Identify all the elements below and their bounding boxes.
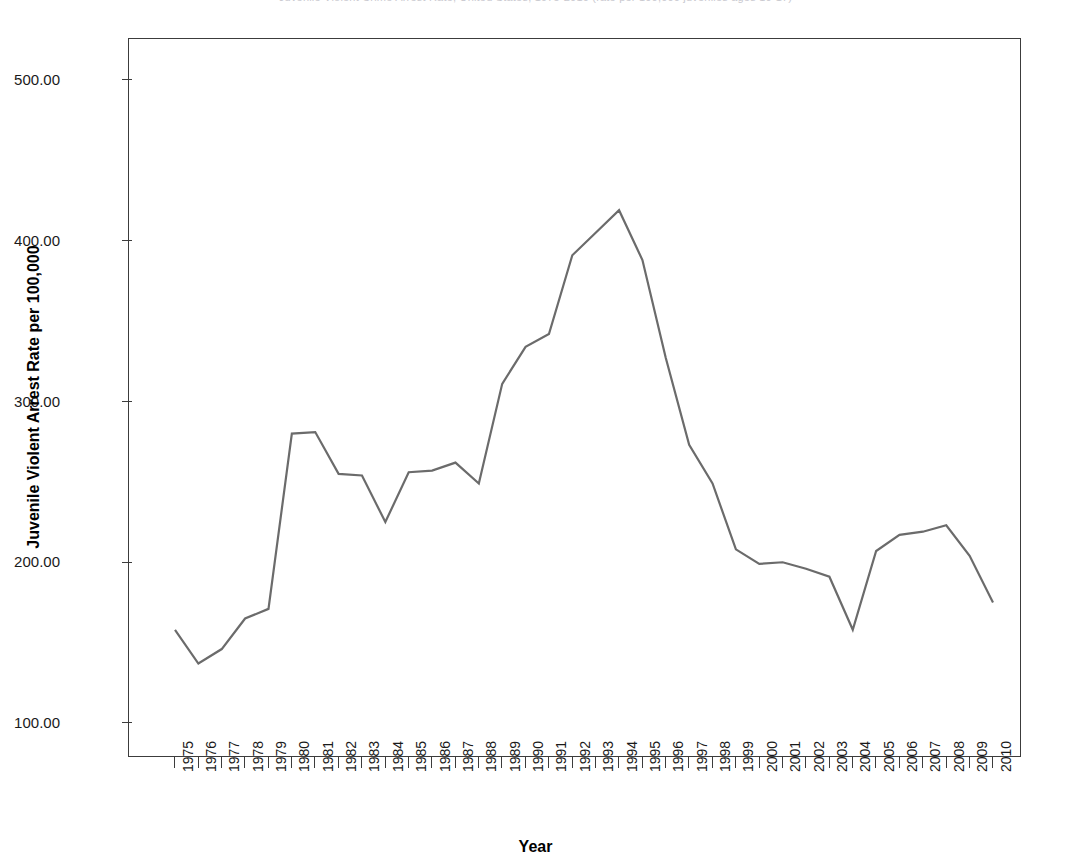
x-tick-mark: [782, 757, 783, 768]
y-axis: 100.00200.00300.00400.00500.00: [0, 0, 120, 867]
x-tick-label: 2009: [975, 741, 989, 772]
y-tick-mark: [122, 562, 132, 563]
x-tick-label: 1984: [391, 741, 405, 772]
chart-figure: Juvenile Violent Crime Arrest Rate, Unit…: [0, 0, 1071, 867]
x-tick-label: 2001: [788, 741, 802, 772]
x-tick-mark: [805, 757, 806, 768]
x-tick-label: 1979: [274, 741, 288, 772]
y-tick-label: 100.00: [14, 715, 60, 730]
x-tick-mark: [992, 757, 993, 768]
x-tick-mark: [244, 757, 245, 768]
plot-area-frame: [128, 38, 1021, 757]
x-tick-label: 1987: [461, 741, 475, 772]
x-tick-label: 1988: [484, 741, 498, 772]
y-tick-label: 500.00: [14, 72, 60, 87]
x-tick-label: 1978: [251, 741, 265, 772]
x-tick-mark: [455, 757, 456, 768]
x-tick-mark: [642, 757, 643, 768]
x-tick-label: 1983: [367, 741, 381, 772]
x-tick-label: 1986: [438, 741, 452, 772]
x-tick-mark: [268, 757, 269, 768]
x-tick-mark: [735, 757, 736, 768]
x-tick-mark: [572, 757, 573, 768]
x-tick-label: 1995: [648, 741, 662, 772]
x-tick-mark: [314, 757, 315, 768]
x-tick-label: 1994: [625, 741, 639, 772]
y-tick-mark: [122, 401, 132, 402]
x-tick-mark: [899, 757, 900, 768]
x-tick-mark: [198, 757, 199, 768]
x-tick-label: 1980: [297, 741, 311, 772]
x-tick-mark: [548, 757, 549, 768]
x-tick-mark: [946, 757, 947, 768]
x-axis-title: Year: [0, 838, 1071, 856]
x-tick-mark: [969, 757, 970, 768]
x-tick-mark: [501, 757, 502, 768]
x-tick-mark: [385, 757, 386, 768]
x-tick-label: 1998: [718, 741, 732, 772]
y-axis-title: Juvenile Violent Arrest Rate per 100,000: [25, 117, 43, 677]
x-tick-mark: [618, 757, 619, 768]
x-tick-label: 2004: [858, 741, 872, 772]
x-tick-mark: [361, 757, 362, 768]
x-tick-mark: [408, 757, 409, 768]
x-tick-label: 1976: [204, 741, 218, 772]
x-tick-label: 1991: [554, 741, 568, 772]
y-tick-mark: [122, 240, 132, 241]
x-tick-label: 2000: [765, 741, 779, 772]
clipped-header-text: Juvenile Violent Crime Arrest Rate, Unit…: [0, 0, 1071, 10]
x-tick-label: 1996: [671, 741, 685, 772]
x-tick-mark: [829, 757, 830, 768]
x-tick-label: 1981: [321, 741, 335, 772]
x-tick-mark: [525, 757, 526, 768]
x-tick-label: 1982: [344, 741, 358, 772]
x-tick-mark: [922, 757, 923, 768]
x-tick-label: 1999: [741, 741, 755, 772]
x-tick-mark: [759, 757, 760, 768]
x-tick-mark: [665, 757, 666, 768]
x-tick-mark: [875, 757, 876, 768]
x-tick-mark: [431, 757, 432, 768]
x-tick-label: 1977: [227, 741, 241, 772]
x-tick-mark: [852, 757, 853, 768]
x-tick-mark: [478, 757, 479, 768]
x-tick-mark: [595, 757, 596, 768]
x-tick-label: 2010: [999, 741, 1013, 772]
x-tick-label: 2008: [952, 741, 966, 772]
x-tick-label: 1975: [181, 741, 195, 772]
x-tick-mark: [712, 757, 713, 768]
x-tick-mark: [174, 757, 175, 768]
x-tick-mark: [338, 757, 339, 768]
x-tick-label: 2002: [812, 741, 826, 772]
x-tick-label: 1990: [531, 741, 545, 772]
x-tick-label: 1989: [508, 741, 522, 772]
x-tick-mark: [221, 757, 222, 768]
x-tick-label: 2006: [905, 741, 919, 772]
x-tick-mark: [291, 757, 292, 768]
x-tick-label: 1997: [695, 741, 709, 772]
y-tick-mark: [122, 722, 132, 723]
x-tick-label: 2003: [835, 741, 849, 772]
x-tick-label: 1992: [578, 741, 592, 772]
x-tick-label: 2005: [882, 741, 896, 772]
x-tick-label: 1993: [601, 741, 615, 772]
x-tick-label: 2007: [928, 741, 942, 772]
x-tick-label: 1985: [414, 741, 428, 772]
x-tick-mark: [688, 757, 689, 768]
y-tick-mark: [122, 79, 132, 80]
